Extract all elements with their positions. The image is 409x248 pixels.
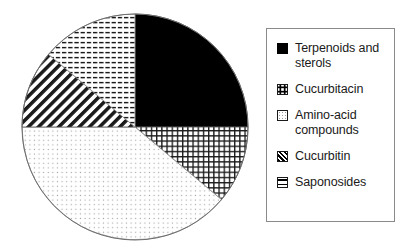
pie-slice-terpenoids-and-sterols[interactable]: [135, 14, 248, 127]
legend-item-label: Saponosides: [295, 175, 366, 190]
legend-item-label: Amino-acid compounds: [295, 108, 359, 138]
legend-item-label: Cucurbitacin: [295, 82, 363, 97]
legend-swatch-horizontal-icon: [277, 177, 288, 188]
legend-item-saponosides[interactable]: Saponosides: [277, 175, 388, 190]
pie-chart-figure: Terpenoids and sterols Cucurbitacin Amin…: [0, 0, 409, 248]
legend-swatch-dots-icon: [277, 110, 288, 121]
legend-swatch-solid-icon: [277, 43, 288, 54]
legend-swatch-diagonal-icon: [277, 151, 288, 162]
pie-slices: [22, 14, 248, 240]
legend-item-label: Terpenoids and sterols: [295, 41, 379, 71]
legend-item-cucurbitin[interactable]: Cucurbitin: [277, 149, 388, 164]
legend-item-label: Cucurbitin: [295, 149, 350, 164]
legend-item-terpenoids-and-sterols[interactable]: Terpenoids and sterols: [277, 41, 388, 71]
legend-item-amino-acid-compounds[interactable]: Amino-acid compounds: [277, 108, 388, 138]
chart-legend: Terpenoids and sterols Cucurbitacin Amin…: [266, 28, 395, 222]
legend-item-cucurbitacin[interactable]: Cucurbitacin: [277, 82, 388, 97]
legend-swatch-grid-icon: [277, 84, 288, 95]
